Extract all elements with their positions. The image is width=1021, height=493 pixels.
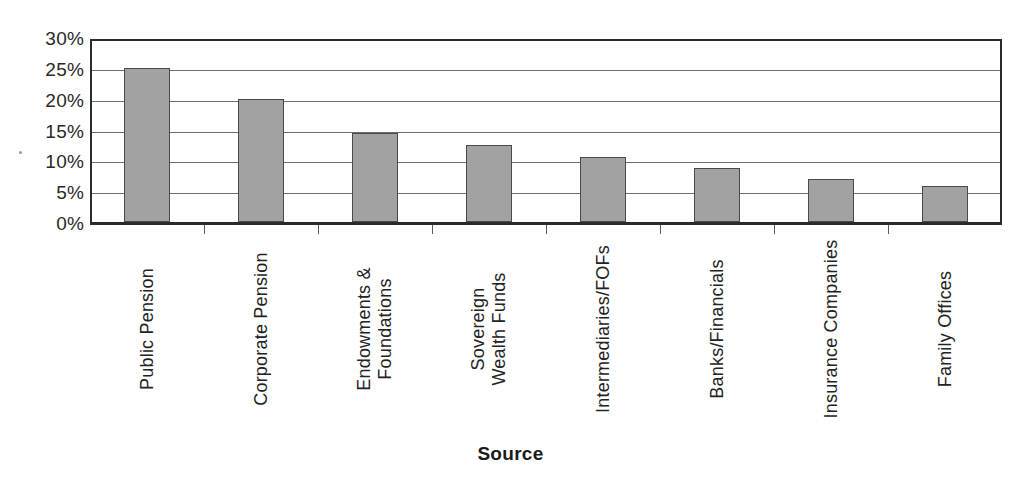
bar — [124, 68, 170, 222]
x-axis-category-label-text: Banks/Financials — [707, 259, 728, 398]
y-axis-tick-label: 20% — [22, 91, 84, 110]
y-axis-tick-label: 10% — [22, 152, 84, 171]
x-axis-category-label: Family Offices — [888, 236, 1002, 422]
x-axis-tick — [318, 225, 319, 234]
y-axis-tick-labels: 30%25%20%15%10%5%0% — [16, 0, 84, 493]
bar-chart: 30%25%20%15%10%5%0% Public PensionCorpor… — [0, 0, 1021, 493]
x-axis-tick — [432, 225, 433, 234]
y-axis-tick-label: 0% — [22, 214, 84, 233]
x-axis-tick — [774, 225, 775, 234]
plot-area — [90, 39, 1002, 224]
x-axis-category-label-text: Sovereign Wealth Funds — [468, 272, 510, 385]
x-axis-category-label: Corporate Pension — [204, 236, 318, 422]
x-axis-category-label-text: Endowments & Foundations — [354, 267, 396, 390]
x-axis-title: Source — [0, 443, 1021, 465]
x-axis-category-label-text: Intermediaries/FOFs — [593, 245, 614, 413]
x-axis-tick — [204, 225, 205, 234]
x-axis-category-labels: Public PensionCorporate PensionEndowment… — [90, 236, 1002, 426]
bar — [694, 168, 740, 222]
bars — [92, 41, 1000, 222]
x-axis-tick — [888, 225, 889, 234]
x-axis-category-label: Intermediaries/FOFs — [546, 236, 660, 422]
x-axis-tick — [660, 225, 661, 234]
y-axis-tick-label: 30% — [22, 29, 84, 48]
scan-artifact-speck — [19, 151, 22, 154]
bar — [808, 179, 854, 222]
y-axis-tick-label: 25% — [22, 60, 84, 79]
x-axis-category-label-text: Insurance Companies — [821, 240, 842, 419]
bar — [238, 99, 284, 222]
x-axis-category-label: Banks/Financials — [660, 236, 774, 422]
x-axis-category-label: Insurance Companies — [774, 236, 888, 422]
bar — [352, 133, 398, 222]
x-axis-category-label: Endowments & Foundations — [318, 236, 432, 422]
bar — [580, 157, 626, 222]
x-axis-category-label-text: Corporate Pension — [251, 252, 272, 406]
x-axis-category-label-text: Family Offices — [935, 271, 956, 388]
x-axis-category-label: Sovereign Wealth Funds — [432, 236, 546, 422]
bar — [466, 145, 512, 222]
bar — [922, 186, 968, 222]
x-axis-category-label-text: Public Pension — [137, 268, 158, 390]
x-axis-tick — [546, 225, 547, 234]
x-axis-category-label: Public Pension — [90, 236, 204, 422]
y-axis-tick-label: 5% — [22, 183, 84, 202]
y-axis-tick-label: 15% — [22, 122, 84, 141]
